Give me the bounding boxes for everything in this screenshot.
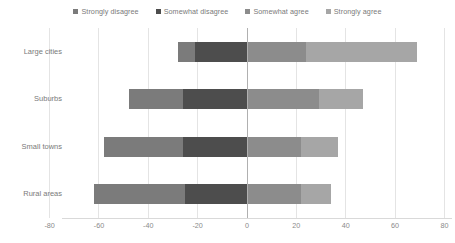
bar-track <box>0 76 455 124</box>
bar-segment[interactable] <box>319 89 363 109</box>
bar-segment[interactable] <box>104 137 183 157</box>
x-axis-line <box>62 218 452 219</box>
x-tick-label: 0 <box>245 222 249 229</box>
legend-item-strongly-agree[interactable]: Strongly agree <box>326 8 382 15</box>
bar-segment[interactable] <box>183 137 247 157</box>
bar-segment[interactable] <box>247 89 319 109</box>
zero-line <box>247 28 248 218</box>
x-tick-label: -40 <box>143 222 153 229</box>
bar-track <box>0 28 455 76</box>
legend-swatch-icon <box>156 9 161 14</box>
x-tick-label: 60 <box>391 222 399 229</box>
legend-item-label: Strongly disagree <box>81 8 138 15</box>
x-axis-tick-labels: -80-60-40-20020406080 <box>0 222 455 238</box>
bar-segment[interactable] <box>94 184 185 204</box>
x-tick-label: 20 <box>292 222 300 229</box>
legend-item-somewhat-agree[interactable]: Somewhat agree <box>245 8 308 15</box>
bar-segment[interactable] <box>178 42 195 62</box>
bar-segment[interactable] <box>247 184 301 204</box>
bar-segment[interactable] <box>306 42 417 62</box>
bar-track <box>0 123 455 171</box>
x-tick-label: -60 <box>94 222 104 229</box>
bar-segment[interactable] <box>301 184 331 204</box>
bar-row: Suburbs <box>0 76 455 124</box>
legend-swatch-icon <box>326 9 331 14</box>
bar-row: Rural areas <box>0 171 455 219</box>
x-tick-label: 80 <box>440 222 448 229</box>
legend-item-label: Somewhat disagree <box>164 8 229 15</box>
legend-item-label: Somewhat agree <box>253 8 308 15</box>
legend-item-somewhat-disagree[interactable]: Somewhat disagree <box>156 8 229 15</box>
legend-swatch-icon <box>73 9 78 14</box>
x-tick-label: -20 <box>192 222 202 229</box>
bar-segment[interactable] <box>183 89 247 109</box>
x-tick-label: 40 <box>342 222 350 229</box>
diverging-stacked-bar-chart: Strongly disagree Somewhat disagree Some… <box>0 0 455 243</box>
bar-row: Small towns <box>0 123 455 171</box>
legend-item-label: Strongly agree <box>334 8 382 15</box>
bar-segment[interactable] <box>185 184 247 204</box>
bar-track <box>0 171 455 219</box>
bar-segment[interactable] <box>129 89 183 109</box>
bar-segment[interactable] <box>247 42 306 62</box>
bar-segment[interactable] <box>301 137 338 157</box>
bar-row: Large cities <box>0 28 455 76</box>
chart-legend: Strongly disagree Somewhat disagree Some… <box>0 8 455 15</box>
bar-segment[interactable] <box>247 137 301 157</box>
legend-swatch-icon <box>245 9 250 14</box>
bar-segment[interactable] <box>195 42 247 62</box>
legend-item-strongly-disagree[interactable]: Strongly disagree <box>73 8 138 15</box>
plot-area: Large citiesSuburbsSmall townsRural area… <box>0 28 455 218</box>
x-tick-label: -80 <box>44 222 54 229</box>
